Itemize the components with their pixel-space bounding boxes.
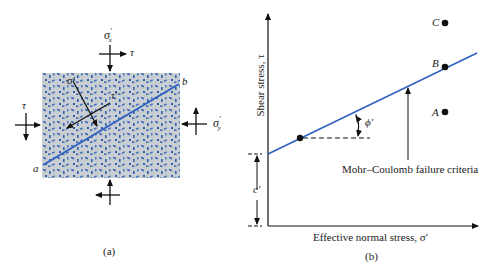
envelope-reference-point xyxy=(297,135,303,141)
sigma-y-label: σ′y xyxy=(213,116,221,132)
sigma-x-label: σ′x xyxy=(104,28,112,44)
cohesion-label: c′ xyxy=(253,184,260,195)
point-c-label: C xyxy=(432,17,439,28)
friction-angle-label: ϕ′ xyxy=(365,117,373,128)
point-a-chart-label: A xyxy=(432,107,439,118)
point-c xyxy=(442,20,449,27)
left-stress-arrows xyxy=(15,113,40,140)
y-axis-label: Shear stress, τ xyxy=(255,46,266,126)
envelope-label: Mohr–Coulomb failure criteria xyxy=(342,164,478,175)
point-b-chart-label: B xyxy=(432,58,439,69)
panel-b-caption: (b) xyxy=(365,251,378,262)
tau-top-label: τ xyxy=(130,47,134,58)
bottom-stress-arrows xyxy=(96,180,120,205)
point-b-label: b xyxy=(182,76,188,87)
point-a-label: a xyxy=(33,163,39,174)
point-a xyxy=(442,109,449,116)
panel-a-caption: (a) xyxy=(103,246,115,257)
tau-plane-label: τ′ xyxy=(111,91,117,101)
sigma-plane-label: σ′ xyxy=(67,75,75,86)
point-b xyxy=(442,64,449,71)
tau-left-label: τ xyxy=(22,100,26,111)
x-axis-label: Effective normal stress, σ′ xyxy=(313,232,428,243)
top-stress-arrows xyxy=(99,45,126,71)
right-stress-arrows xyxy=(182,108,207,135)
